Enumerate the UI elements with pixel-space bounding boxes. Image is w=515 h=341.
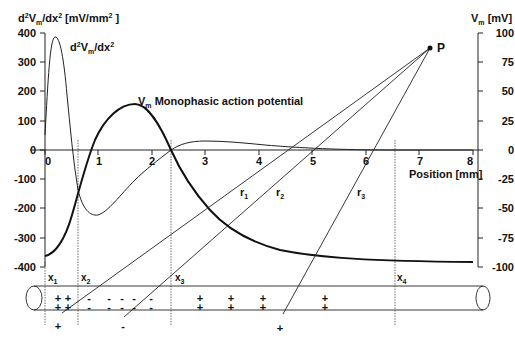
- left-tick-label: 300: [18, 56, 36, 68]
- x-tick-label: 8: [467, 155, 473, 167]
- right-axis-tick-labels: 100 75 50 25 0 -25 -50 -75 -100: [492, 27, 514, 273]
- x-tick-label: 1: [96, 155, 102, 167]
- right-axis: [478, 33, 483, 267]
- left-axis-title: d2Vm/dx2 [mV/mm2 ]: [18, 12, 119, 26]
- action-potential-diagram: 400 300 200 100 0 -100 -200 -300 -400 d2…: [0, 0, 515, 341]
- svg-text:-: -: [132, 301, 136, 313]
- r3-label: r3: [357, 186, 365, 200]
- x1-label: x1: [48, 272, 58, 285]
- r2-label: r2: [276, 186, 284, 200]
- x3-label: x3: [175, 272, 185, 285]
- svg-text:+: +: [260, 301, 266, 313]
- svg-text:+: +: [65, 301, 71, 313]
- svg-text:+: +: [55, 320, 61, 332]
- right-tick-label: 0: [508, 144, 514, 156]
- svg-text:-: -: [120, 301, 124, 313]
- extracellular-charges: + - +: [55, 320, 283, 334]
- point-p-label: P: [437, 41, 445, 55]
- left-tick-label: -200: [14, 202, 36, 214]
- x-axis-title: Position [mm]: [409, 168, 483, 180]
- x-tick-label: 6: [363, 155, 369, 167]
- x-tick-label: 0: [45, 155, 51, 167]
- right-tick-label: -100: [492, 261, 514, 273]
- x-tick-label: 3: [202, 155, 208, 167]
- right-tick-label: -25: [498, 173, 514, 185]
- left-tick-label: 100: [18, 115, 36, 127]
- nerve-fiber-cylinder: [26, 286, 490, 310]
- svg-text:-: -: [87, 301, 91, 313]
- svg-text:-: -: [149, 301, 153, 313]
- right-axis-title: Vm [mV]: [471, 12, 512, 26]
- x-tick-label: 4: [256, 155, 263, 167]
- right-tick-label: 75: [502, 56, 514, 68]
- x-axis-tick-labels: 0 1 2 3 4 5 6 7 8: [45, 155, 473, 167]
- right-tick-label: -50: [498, 202, 514, 214]
- second-derivative-label: d2Vm/dx2: [70, 41, 114, 55]
- left-tick-label: -300: [14, 232, 36, 244]
- right-tick-label: 100: [496, 27, 514, 39]
- svg-text:-: -: [107, 301, 111, 313]
- r1-label: r1: [240, 186, 248, 200]
- radius-lines: [62, 48, 430, 317]
- right-tick-label: 50: [502, 85, 514, 97]
- svg-text:+: +: [55, 301, 61, 313]
- vm-curve-label: Vm Monophasic action potential: [138, 95, 303, 109]
- point-p-marker: [428, 46, 433, 51]
- x-tick-label: 5: [310, 155, 316, 167]
- svg-text:+: +: [277, 322, 283, 334]
- svg-text:-: -: [121, 320, 125, 332]
- svg-text:+: +: [322, 301, 328, 313]
- svg-text:+: +: [197, 301, 203, 313]
- x4-label: x4: [397, 272, 407, 285]
- svg-text:+: +: [228, 301, 234, 313]
- left-tick-label: -400: [14, 261, 36, 273]
- right-tick-label: -75: [498, 232, 514, 244]
- right-tick-label: 25: [502, 115, 514, 127]
- x2-label: x2: [81, 272, 91, 285]
- left-tick-label: 400: [18, 27, 36, 39]
- left-tick-label: 200: [18, 85, 36, 97]
- x-tick-label: 7: [417, 155, 423, 167]
- left-tick-label: -100: [14, 173, 36, 185]
- vm-curve: [45, 104, 473, 262]
